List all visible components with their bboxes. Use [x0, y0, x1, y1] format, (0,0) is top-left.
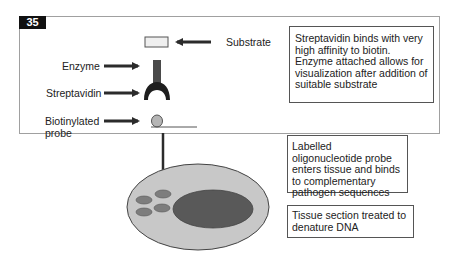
substrate-rect	[145, 37, 168, 47]
target-sequence	[136, 196, 152, 204]
target-sequence	[155, 190, 171, 198]
enzyme-label: Enzyme	[62, 60, 100, 72]
streptavidin-shape	[144, 82, 170, 100]
target-sequence	[136, 208, 152, 216]
target-sequence	[154, 204, 170, 212]
biotinylated-probe-label: Biotinylated probe	[45, 115, 105, 139]
denature-info-box: Tissue section treated to denature DNA	[287, 205, 414, 238]
biotin-circle	[152, 115, 163, 127]
substrate-label: Substrate	[226, 36, 271, 48]
streptavidin-info-box: Streptavidin binds with very high affini…	[289, 26, 434, 103]
probe-info-box: Labelled oligonucleotide probe enters ti…	[287, 135, 408, 193]
streptavidin-label: Streptavidin	[46, 87, 101, 99]
nucleus	[173, 190, 253, 228]
